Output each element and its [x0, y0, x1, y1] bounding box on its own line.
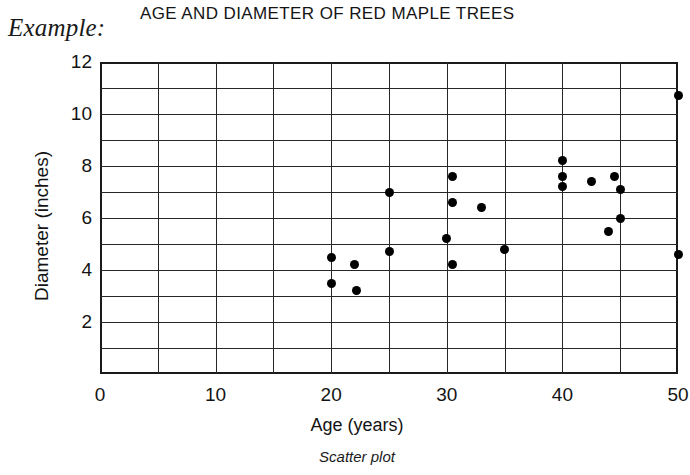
data-point [604, 227, 613, 236]
data-point [448, 198, 457, 207]
gridline-vertical [273, 62, 274, 374]
y-axis-tick-labels: 24681012 [46, 62, 92, 374]
gridline-vertical [216, 62, 217, 374]
y-tick-label: 6 [52, 207, 92, 229]
gridline-vertical [562, 62, 563, 374]
x-tick-label: 50 [648, 384, 690, 406]
y-tick-label: 2 [52, 311, 92, 333]
data-point [587, 177, 596, 186]
x-tick-label: 0 [70, 384, 130, 406]
gridline-vertical [158, 62, 159, 374]
data-point [616, 214, 625, 223]
gridline-vertical [331, 62, 332, 374]
data-point [327, 279, 336, 288]
figure-caption: Scatter plot [0, 448, 690, 465]
data-point [385, 188, 394, 197]
plot-area [100, 62, 678, 374]
data-point [477, 203, 486, 212]
chart-title: AGE AND DIAMETER OF RED MAPLE TREES [140, 4, 660, 24]
y-tick-label: 10 [52, 103, 92, 125]
example-label: Example: [8, 14, 105, 42]
gridline-vertical [389, 62, 390, 374]
x-axis-title-text: Age (years) [310, 415, 403, 436]
x-axis-tick-labels: 01020304050 [100, 384, 678, 412]
gridline-vertical [447, 62, 448, 374]
data-point [558, 172, 567, 181]
data-point [500, 245, 509, 254]
x-tick-label: 20 [301, 384, 361, 406]
y-tick-label: 4 [52, 259, 92, 281]
data-point [616, 185, 625, 194]
figure-caption-text: Scatter plot [319, 448, 395, 465]
data-point [610, 172, 619, 181]
y-tick-label: 12 [52, 51, 92, 73]
data-point [674, 91, 683, 100]
x-axis-title: Age (years) [0, 415, 690, 436]
data-point [327, 253, 336, 262]
x-tick-label: 30 [417, 384, 477, 406]
x-tick-label: 40 [532, 384, 592, 406]
gridline-vertical [505, 62, 506, 374]
data-point [448, 172, 457, 181]
data-point [674, 250, 683, 259]
y-tick-label: 8 [52, 155, 92, 177]
x-tick-label: 10 [186, 384, 246, 406]
data-point [385, 247, 394, 256]
